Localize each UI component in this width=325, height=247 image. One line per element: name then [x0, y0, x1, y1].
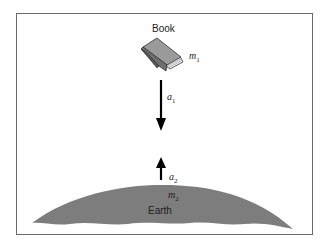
earth-mass-label: m2 — [168, 189, 179, 203]
arrow-a2-icon — [156, 157, 166, 180]
acceleration-a2-label: a2 — [169, 171, 178, 185]
book-icon — [141, 38, 183, 71]
acceleration-a1-label: a1 — [167, 91, 176, 105]
arrow-a1-icon — [156, 80, 166, 131]
earth-label: Earth — [148, 205, 172, 216]
book-mass-label: m1 — [189, 50, 200, 64]
book-label: Book — [152, 23, 175, 34]
